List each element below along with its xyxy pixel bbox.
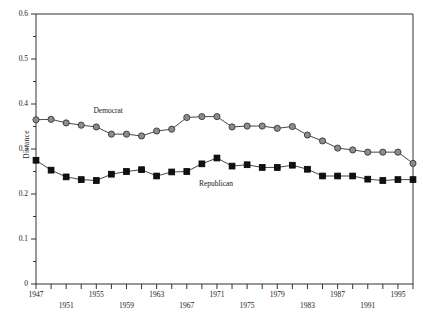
series-annotation-republican: Republican — [199, 179, 233, 188]
data-point-democrat — [289, 123, 295, 129]
x-tick-label-upper: 1971 — [202, 290, 232, 299]
data-point-democrat — [154, 128, 160, 134]
series-line-democrat — [36, 117, 413, 164]
data-point-democrat — [335, 145, 341, 151]
data-point-republican — [274, 165, 280, 171]
data-point-democrat — [123, 131, 129, 137]
data-point-republican — [289, 162, 295, 168]
y-tick-label: 0.1 — [2, 234, 28, 243]
data-point-democrat — [274, 125, 280, 131]
x-tick-label-upper: 1987 — [323, 290, 353, 299]
data-point-republican — [259, 165, 265, 171]
chart-figure: Distance 0.60.50.40.30.20.10194719551963… — [0, 0, 423, 317]
data-point-democrat — [108, 131, 114, 137]
data-point-republican — [109, 171, 115, 177]
data-point-republican — [305, 166, 311, 172]
data-point-republican — [139, 167, 145, 173]
data-point-republican — [350, 173, 356, 179]
x-tick-label-upper: 1963 — [142, 290, 172, 299]
data-point-democrat — [259, 123, 265, 129]
data-point-democrat — [304, 132, 310, 138]
x-tick-label-lower: 1975 — [232, 301, 262, 310]
x-tick-label-lower: 1983 — [292, 301, 322, 310]
data-point-republican — [244, 162, 250, 168]
data-point-democrat — [365, 149, 371, 155]
data-point-republican — [199, 161, 205, 167]
x-tick-label-lower: 1951 — [51, 301, 81, 310]
data-point-democrat — [63, 120, 69, 126]
x-tick-label-upper: 1947 — [21, 290, 51, 299]
data-point-republican — [124, 169, 130, 175]
x-tick-label-upper: 1955 — [81, 290, 111, 299]
data-point-democrat — [199, 114, 205, 120]
data-point-democrat — [395, 149, 401, 155]
data-point-democrat — [184, 114, 190, 120]
data-point-republican — [184, 169, 190, 175]
y-tick-label: 0.6 — [2, 9, 28, 18]
data-point-democrat — [78, 122, 84, 128]
data-point-republican — [33, 157, 39, 163]
data-point-republican — [48, 167, 54, 173]
x-tick-label-lower: 1991 — [353, 301, 383, 310]
data-point-republican — [335, 173, 341, 179]
data-point-republican — [214, 155, 220, 161]
x-tick-label-lower: 1959 — [111, 301, 141, 310]
data-point-democrat — [214, 114, 220, 120]
x-tick-label-upper: 1979 — [262, 290, 292, 299]
data-point-democrat — [138, 133, 144, 139]
data-point-republican — [395, 177, 401, 183]
x-tick-label-upper: 1995 — [383, 290, 413, 299]
y-tick-label: 0.3 — [2, 144, 28, 153]
series-annotation-democrat: Democrat — [93, 106, 123, 115]
data-point-democrat — [244, 123, 250, 129]
data-point-republican — [63, 174, 69, 180]
data-point-democrat — [33, 117, 39, 123]
data-point-republican — [365, 176, 371, 182]
series-line-republican — [36, 158, 413, 181]
data-point-republican — [78, 177, 84, 183]
y-tick-label: 0.2 — [2, 189, 28, 198]
data-point-republican — [380, 178, 386, 184]
data-point-democrat — [410, 160, 416, 166]
data-point-republican — [320, 173, 326, 179]
y-tick-label: 0.5 — [2, 54, 28, 63]
y-tick-label: 0 — [2, 279, 28, 288]
data-point-democrat — [380, 149, 386, 155]
data-point-democrat — [93, 124, 99, 130]
data-point-republican — [169, 169, 175, 175]
data-point-democrat — [229, 124, 235, 130]
data-point-republican — [229, 163, 235, 169]
y-tick-label: 0.4 — [2, 99, 28, 108]
data-point-democrat — [350, 147, 356, 153]
data-point-democrat — [319, 138, 325, 144]
x-tick-label-lower: 1967 — [172, 301, 202, 310]
data-point-republican — [154, 173, 160, 179]
data-point-republican — [410, 177, 416, 183]
chart-canvas — [0, 0, 423, 317]
data-point-democrat — [169, 126, 175, 132]
data-point-republican — [93, 178, 99, 184]
data-point-democrat — [48, 116, 54, 122]
